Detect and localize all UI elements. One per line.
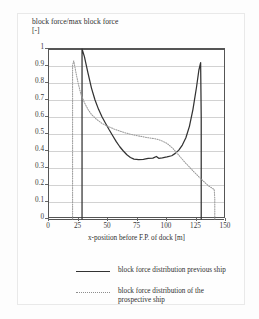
x-axis-tick-labels: 0255075100125150 (48, 223, 225, 233)
y-axis-tick-label: 0.3 (14, 163, 44, 170)
y-axis-tick-label: 0.6 (14, 112, 44, 119)
legend-item-previous-ship: block force distribution previous ship (76, 266, 241, 280)
legend-item-prospective-ship: block force distribution of the prospect… (76, 287, 241, 305)
x-axis-tick-mark (78, 218, 79, 221)
x-axis-tick-mark (137, 218, 138, 221)
y-axis-tick-label: 0.4 (14, 146, 44, 153)
x-axis-tick-mark (107, 218, 108, 221)
x-axis-tick-label: 75 (122, 223, 152, 230)
y-axis-tick-label: 0.2 (14, 180, 44, 187)
series-prospective-ship-line (73, 61, 215, 219)
y-axis-tick-label: 0 (14, 214, 44, 221)
legend-swatch-dotted-line-icon (76, 292, 110, 296)
y-axis-tick-label: 0.9 (14, 61, 44, 68)
chart-legend: block force distribution previous ship b… (76, 266, 241, 312)
x-axis-tick-label: 100 (151, 223, 181, 230)
chart-title: block force/max block force [-] (32, 17, 118, 36)
legend-label-prospective-ship: block force distribution of the prospect… (118, 287, 241, 305)
x-axis-tick-label: 25 (63, 223, 93, 230)
x-axis-tick-mark (196, 218, 197, 221)
y-axis-tick-label: 0.8 (14, 78, 44, 85)
y-axis-tick-label: 0.5 (14, 129, 44, 136)
x-axis-tick-label: 125 (181, 223, 211, 230)
chart-figure: block force/max block force [-] 10.90.80… (0, 0, 259, 319)
series-previous-ship-line (82, 49, 201, 219)
legend-swatch-solid-line-icon (76, 271, 110, 275)
x-axis-tick-mark (166, 218, 167, 221)
x-axis-tick-mark (225, 218, 226, 221)
y-axis-tick-label: 1 (14, 44, 44, 51)
y-axis-tick-labels: 10.90.80.70.60.50.40.30.20.10 (12, 48, 44, 218)
x-axis-tick-label: 50 (92, 223, 122, 230)
x-axis-title: x-position before F.P. of dock [m] (48, 234, 225, 242)
x-axis-tick-label: 150 (210, 223, 240, 230)
x-axis-tick-label: 0 (33, 223, 63, 230)
legend-label-previous-ship: block force distribution previous ship (118, 266, 241, 275)
y-axis-tick-label: 0.7 (14, 95, 44, 102)
x-axis-tick-mark (48, 218, 49, 221)
plot-area (48, 48, 225, 218)
y-axis-tick-label: 0.1 (14, 197, 44, 204)
series-lines (49, 49, 226, 219)
